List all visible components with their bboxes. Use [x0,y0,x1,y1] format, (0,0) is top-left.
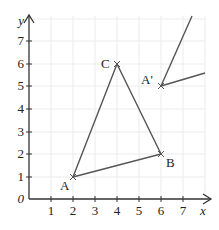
y-tick-label: 5 [18,78,25,93]
x-tick-label: 4 [114,203,121,218]
x-tick-label: 2 [70,203,77,218]
y-tick-label: 6 [18,56,25,71]
coordinate-diagram: 1 2 3 4 5 6 7 x 1 2 3 4 5 6 7 y 0 A B C … [0,0,219,230]
x-tick-label: 6 [158,203,165,218]
point-c-label: C [101,56,110,71]
y-tick-label: 7 [18,33,25,48]
x-axis-label: x [199,203,206,218]
y-tick-label: 2 [18,146,25,161]
y-tick-label: 3 [18,124,25,139]
y-tick-label: 1 [18,169,25,184]
point-a-label: A [60,178,70,193]
point-a-prime-label: A' [141,72,153,87]
point-b-label: B [166,155,175,170]
x-tick-label: 5 [136,203,143,218]
y-tick-label: 4 [18,101,25,116]
origin-label: 0 [18,191,25,206]
y-tick-labels: 1 2 3 4 5 6 7 y 0 [16,13,24,206]
y-axis-label: y [16,13,24,28]
x-tick-label: 1 [48,203,55,218]
x-tick-labels: 1 2 3 4 5 6 7 x [48,203,206,218]
x-tick-label: 7 [180,203,187,218]
grid [29,16,205,199]
x-tick-label: 3 [92,203,99,218]
